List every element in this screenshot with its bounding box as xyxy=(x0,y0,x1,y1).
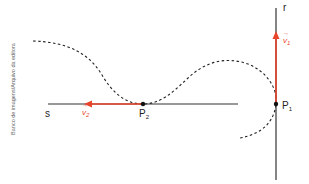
label-v2: →v2 xyxy=(82,108,89,118)
label-p1-sub: 1 xyxy=(289,106,292,112)
label-p1-text: P xyxy=(282,100,289,111)
vector-v1-arrowhead xyxy=(273,31,280,39)
label-v1-sub: 1 xyxy=(287,40,290,46)
diagram-canvas xyxy=(0,0,309,184)
point-p2 xyxy=(141,102,145,106)
label-p2: P2 xyxy=(139,108,149,120)
point-p1 xyxy=(274,102,278,106)
label-p2-sub: 2 xyxy=(146,114,149,120)
label-p1: P1 xyxy=(282,100,292,112)
label-r: r xyxy=(283,2,286,13)
trajectory-curve xyxy=(33,41,276,138)
label-v1: →v1 xyxy=(283,36,290,46)
label-v2-sub: 2 xyxy=(86,112,89,118)
label-s: s xyxy=(45,108,50,119)
label-p2-text: P xyxy=(139,108,146,119)
